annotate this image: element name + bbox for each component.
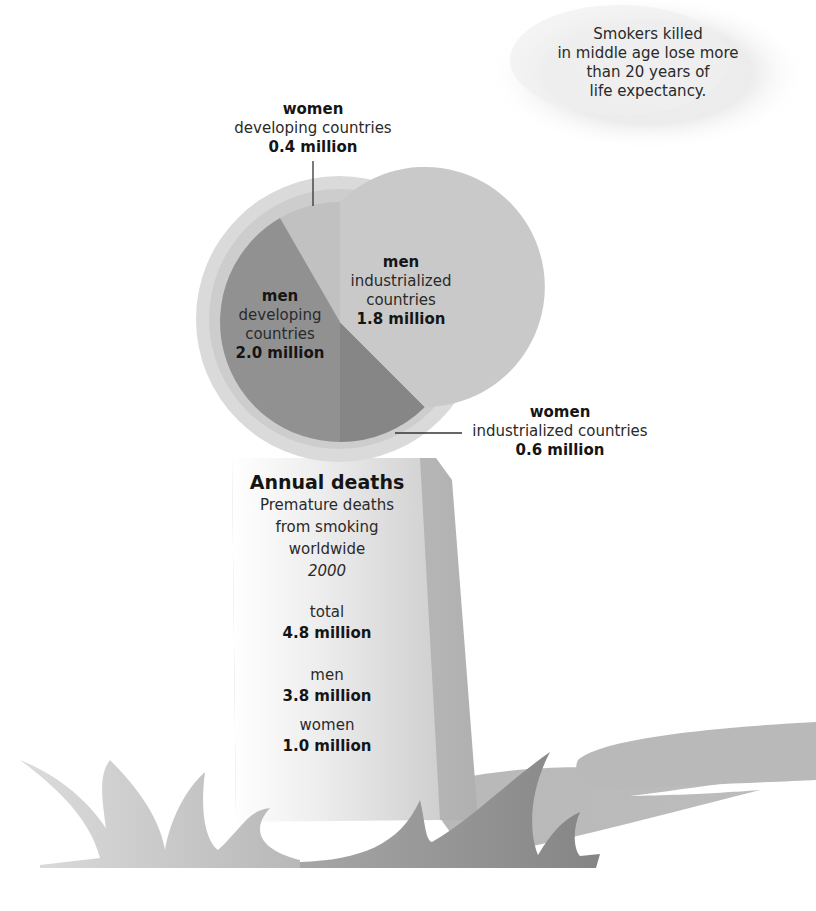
label-men-developing: men developing countries 2.0 million	[222, 287, 338, 363]
label-region: industrialized	[336, 272, 466, 291]
label-region: countries	[222, 325, 338, 344]
chart-subtitle-line: worldwide	[232, 540, 422, 559]
chart-subtitle-line: from smoking	[232, 518, 422, 537]
label-region: developing countries	[200, 119, 426, 138]
label-region: countries	[336, 291, 466, 310]
label-group: men	[222, 287, 338, 306]
label-women-developing: women developing countries 0.4 million	[200, 100, 426, 157]
label-women-industrialized: women industrialized countries 0.6 milli…	[460, 403, 660, 460]
summary-value-women: 1.0 million	[232, 737, 422, 756]
label-value: 1.8 million	[336, 310, 466, 329]
pedestal-text: Annual deaths Premature deaths from smok…	[232, 470, 422, 756]
summary-value-total: 4.8 million	[232, 624, 422, 643]
label-region: developing	[222, 306, 338, 325]
label-men-industrialized: men industrialized countries 1.8 million	[336, 253, 466, 329]
label-value: 2.0 million	[222, 344, 338, 363]
summary-value-men: 3.8 million	[232, 687, 422, 706]
label-group: women	[460, 403, 660, 422]
summary-label-total: total	[232, 603, 422, 622]
label-group: men	[336, 253, 466, 272]
chart-year: 2000	[232, 562, 422, 581]
label-value: 0.6 million	[460, 441, 660, 460]
callout-text: Smokers killed in middle age lose more t…	[528, 25, 768, 101]
callout-line: than 20 years of	[528, 63, 768, 82]
chart-subtitle-line: Premature deaths	[232, 496, 422, 515]
callout-line: Smokers killed	[528, 25, 768, 44]
summary-label-women: women	[232, 716, 422, 735]
callout-line: in middle age lose more	[528, 44, 768, 63]
label-group: women	[200, 100, 426, 119]
label-region: industrialized countries	[460, 422, 660, 441]
summary-label-men: men	[232, 666, 422, 685]
label-value: 0.4 million	[200, 138, 426, 157]
callout-line: life expectancy.	[528, 82, 768, 101]
chart-title: Annual deaths	[232, 470, 422, 494]
